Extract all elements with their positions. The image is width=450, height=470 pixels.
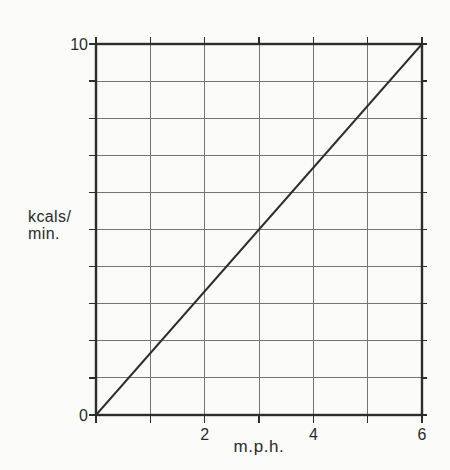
y-tick-label-10: 10 [70, 36, 88, 54]
y-axis-label-line1: kcals/ [28, 208, 71, 225]
y-axis-label-line2: min. [28, 225, 71, 242]
energy-expenditure-chart: kcals/ min. m.p.h. 246010 [0, 0, 450, 470]
x-tick-label-2: 2 [200, 426, 209, 444]
x-tick-label-6: 6 [418, 426, 427, 444]
y-tick-label-0: 0 [79, 407, 88, 425]
y-axis-label: kcals/ min. [28, 208, 71, 242]
x-tick-label-4: 4 [309, 426, 318, 444]
x-axis-label: m.p.h. [234, 437, 285, 457]
